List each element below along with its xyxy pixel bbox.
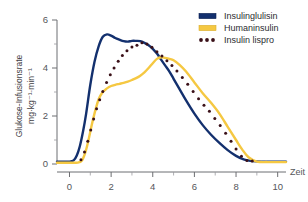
data-point bbox=[83, 151, 86, 154]
legend-swatch-icon bbox=[199, 13, 216, 18]
data-point bbox=[125, 49, 128, 52]
x-axis-tick-labels: 0246810 bbox=[67, 181, 283, 192]
data-point bbox=[192, 90, 195, 93]
data-point bbox=[92, 117, 95, 120]
x-tick-label: 8 bbox=[233, 181, 238, 192]
data-point bbox=[165, 59, 168, 62]
legend-dot-icon bbox=[211, 38, 215, 42]
data-point bbox=[113, 67, 116, 70]
data-point bbox=[79, 158, 82, 161]
glucose-infusion-rate-chart: 0246 0246810 Glukose-Infusionsrate mg·kg… bbox=[0, 0, 308, 202]
data-point bbox=[213, 117, 216, 120]
data-point bbox=[175, 69, 178, 72]
data-point bbox=[230, 140, 233, 143]
legend-item-2[interactable]: Humaninsulin bbox=[199, 23, 279, 33]
y-axis-ticks bbox=[52, 20, 57, 164]
x-tick-label: 6 bbox=[192, 181, 197, 192]
y-tick-label: 6 bbox=[43, 14, 48, 25]
x-tick-label: 0 bbox=[67, 181, 72, 192]
legend-label: Humaninsulin bbox=[224, 23, 279, 33]
data-point bbox=[140, 41, 143, 44]
y-tick-label: 2 bbox=[43, 110, 48, 121]
data-point bbox=[117, 60, 120, 63]
data-point bbox=[145, 43, 148, 46]
data-point bbox=[105, 81, 108, 84]
data-point bbox=[135, 44, 138, 47]
legend-item-1[interactable]: Insulinglulisin bbox=[199, 11, 278, 21]
x-axis-ticks bbox=[69, 172, 277, 177]
y-tick-label: 0 bbox=[43, 158, 48, 169]
data-series-group bbox=[57, 34, 286, 162]
y-axis-title: Glukose-Infusionsrate bbox=[14, 54, 24, 137]
data-point bbox=[89, 128, 92, 131]
series-3-dots bbox=[79, 41, 253, 162]
data-point bbox=[155, 50, 158, 53]
data-point bbox=[181, 76, 184, 79]
legend-label: Insulin lispro bbox=[224, 35, 274, 45]
data-point bbox=[95, 107, 98, 110]
x-tick-label: 10 bbox=[272, 181, 283, 192]
data-point bbox=[251, 160, 254, 163]
data-point bbox=[208, 110, 211, 113]
data-point bbox=[202, 104, 205, 107]
legend-label: Insulinglulisin bbox=[224, 11, 278, 21]
y-axis-tick-labels: 0246 bbox=[43, 14, 48, 169]
data-point bbox=[160, 55, 163, 58]
x-tick-label: 2 bbox=[108, 181, 113, 192]
data-point bbox=[170, 64, 173, 67]
x-tick-label: 4 bbox=[150, 181, 155, 192]
data-point bbox=[109, 73, 112, 76]
legend-item-3[interactable]: Insulin lispro bbox=[199, 35, 274, 45]
data-point bbox=[98, 98, 101, 101]
data-point bbox=[150, 46, 153, 49]
data-point bbox=[121, 54, 124, 57]
data-point bbox=[219, 124, 222, 127]
data-point bbox=[240, 155, 243, 158]
data-point bbox=[224, 132, 227, 135]
data-point bbox=[235, 148, 238, 151]
y-axis-units-label: mg·kg⁻¹·min⁻¹ bbox=[26, 68, 36, 124]
legend-dot-icon bbox=[205, 38, 209, 42]
data-point bbox=[86, 140, 89, 143]
data-point bbox=[197, 97, 200, 100]
data-point bbox=[186, 83, 189, 86]
legend-swatch-icon bbox=[199, 25, 216, 30]
data-point bbox=[101, 90, 104, 93]
chart-figure: 0246 0246810 Glukose-Infusionsrate mg·kg… bbox=[0, 0, 308, 202]
legend-dot-icon bbox=[199, 38, 203, 42]
data-point bbox=[245, 159, 248, 162]
chart-legend: InsulinglulisinHumaninsulinInsulin lispr… bbox=[199, 11, 279, 45]
y-tick-label: 4 bbox=[43, 62, 48, 73]
series-1-line bbox=[57, 34, 286, 161]
x-axis-title: Zeit bbox=[290, 167, 306, 177]
data-point bbox=[130, 45, 133, 48]
